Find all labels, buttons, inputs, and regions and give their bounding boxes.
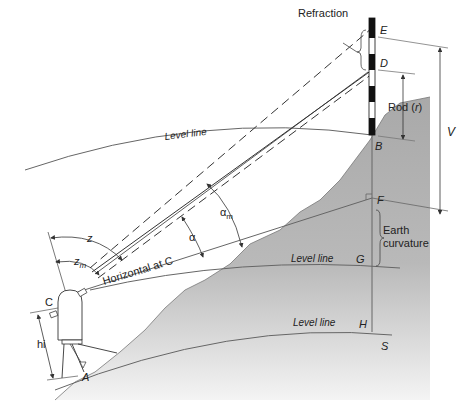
- tick-e: [378, 37, 448, 48]
- refraction-leader: [343, 43, 357, 52]
- label-zm: zm: [73, 255, 87, 270]
- label-level-line-top: Level line: [164, 126, 208, 142]
- diagram-canvas: Refraction E D Rod (r) V B Level line F …: [0, 0, 473, 420]
- label-alpha: α: [189, 231, 196, 243]
- label-curvature: curvature: [383, 237, 429, 249]
- label-earth: Earth: [383, 224, 409, 236]
- label-level-line-mid: Level line: [291, 253, 334, 264]
- label-point-h: H: [359, 318, 367, 330]
- surveying-diagram: Refraction E D Rod (r) V B Level line F …: [0, 0, 473, 420]
- label-z: z: [86, 232, 93, 244]
- label-hi: hi: [37, 338, 46, 350]
- tick-d: [378, 70, 415, 74]
- label-level-line-bottom: Level line: [293, 317, 336, 328]
- label-point-a: A: [81, 371, 89, 383]
- vertical-at-c: [48, 232, 68, 300]
- label-refraction: Refraction: [298, 7, 348, 19]
- refraction-brace: [357, 30, 366, 70]
- label-rod: Rod (r): [388, 101, 422, 113]
- label-point-b: B: [375, 140, 382, 152]
- terrain: [55, 97, 430, 400]
- label-v: V: [447, 125, 456, 139]
- label-point-g: G: [356, 253, 365, 265]
- leveling-rod: [369, 18, 375, 135]
- label-point-c: C: [45, 296, 53, 308]
- label-point-e: E: [380, 24, 388, 36]
- label-horizontal-at-c: Horizontal at C: [101, 254, 174, 287]
- label-point-d: D: [380, 57, 388, 69]
- label-point-s: S: [381, 340, 389, 352]
